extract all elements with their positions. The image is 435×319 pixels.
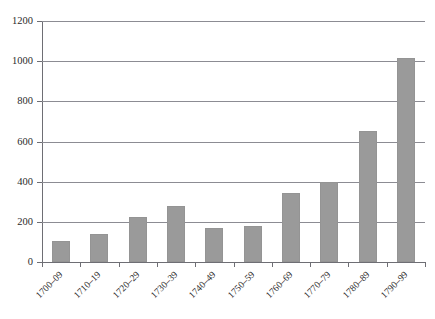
bar (282, 193, 300, 262)
bar (205, 228, 223, 262)
y-axis-tick-label: 1000 (0, 55, 33, 67)
x-axis-tick (310, 262, 311, 267)
x-axis-tick (425, 262, 426, 267)
bar (90, 234, 108, 262)
x-axis-tick (234, 262, 235, 267)
bar (167, 206, 185, 262)
x-axis-tick (157, 262, 158, 267)
x-axis-tick (195, 262, 196, 267)
x-axis-tick-label: 1720–29 (97, 269, 141, 313)
x-axis-tick-label: 1780–89 (327, 269, 371, 313)
x-axis-tick-label: 1740–49 (174, 269, 218, 313)
y-axis-tick-label: 600 (0, 136, 33, 148)
x-axis-tick (42, 262, 43, 267)
x-axis-tick-label: 1700–09 (21, 269, 65, 313)
bar (244, 226, 262, 262)
x-axis-tick (272, 262, 273, 267)
y-axis-tick-label: 400 (0, 176, 33, 188)
bar-chart: 020040060080010001200 1700–091710–191720… (0, 0, 435, 319)
x-axis-tick-label: 1770–79 (289, 269, 333, 313)
bar (320, 182, 338, 262)
bar (52, 241, 70, 262)
y-axis-tick-label: 200 (0, 216, 33, 228)
x-axis-tick-label: 1760–69 (251, 269, 295, 313)
x-axis-tick (387, 262, 388, 267)
x-axis-tick-label: 1750–59 (212, 269, 256, 313)
y-axis-tick-label: 1200 (0, 15, 33, 27)
x-axis-tick (119, 262, 120, 267)
x-axis-tick-label: 1790–99 (366, 269, 410, 313)
bar (129, 217, 147, 262)
x-axis-tick (80, 262, 81, 267)
x-axis-tick-label: 1730–39 (136, 269, 180, 313)
bars-layer (42, 21, 425, 262)
y-axis-tick-label: 800 (0, 95, 33, 107)
x-axis-tick-label: 1710–19 (59, 269, 103, 313)
bar (397, 58, 415, 262)
x-axis-tick (348, 262, 349, 267)
y-axis-tick-label: 0 (0, 256, 33, 268)
bar (359, 131, 377, 262)
